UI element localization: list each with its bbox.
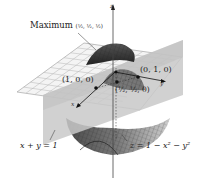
y-axis-label: y (160, 79, 163, 86)
point-1-0-0 (94, 86, 98, 90)
plane-equation-label: x + y = 1 (20, 142, 58, 150)
surface-equation-label: z = 1 − x² − y² (130, 142, 190, 150)
maximum-label: Maximum (½, ½, ½) (30, 21, 103, 30)
point-label-half-half-0: (½, ½, 0) (115, 86, 150, 94)
paraboloid-plane-diagram: z x y Maximum (½, ½, ½) (1, 0, 0) (0, 1,… (0, 0, 203, 185)
x-axis-label: x (71, 100, 74, 107)
maximum-point: (½, ½, ½) (76, 23, 103, 29)
point-0-1-0 (136, 75, 140, 79)
point-label-1-0-0: (1, 0, 0) (62, 76, 94, 84)
point-half-half-0 (115, 80, 119, 84)
z-axis-label: z (110, 2, 113, 9)
point-label-0-1-0: (0, 1, 0) (140, 66, 172, 74)
maximum-text: Maximum (30, 20, 73, 30)
origin-point (115, 71, 118, 74)
